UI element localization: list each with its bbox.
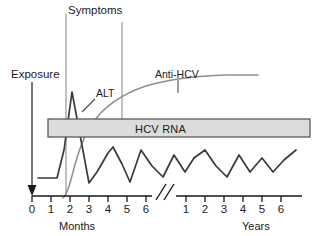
tick-label-year-4: 4: [236, 203, 250, 215]
tick-label-month-1: 1: [44, 203, 58, 215]
alt-label: ALT: [96, 88, 114, 99]
anti-hcv-label: Anti-HCV: [155, 69, 199, 80]
x-axis: [32, 184, 302, 202]
tick-label-month-6: 6: [139, 203, 153, 215]
tick-label-year-5: 5: [255, 203, 269, 215]
tick-label-year-2: 2: [198, 203, 212, 215]
x-axis-months-title: Months: [59, 221, 95, 232]
axis-break-mark: [156, 184, 174, 200]
tick-label-month-3: 3: [82, 203, 96, 215]
exposure-arrow: [28, 82, 37, 196]
x-axis-years-title: Years: [242, 221, 270, 232]
tick-label-year-3: 3: [217, 203, 231, 215]
tick-label-month-4: 4: [101, 203, 115, 215]
tick-label-year-1: 1: [179, 203, 193, 215]
hcv-serology-chart: Symptoms Exposure ALT Anti-HCV HCV RNA 0…: [0, 0, 321, 236]
hcv-rna-label: HCV RNA: [0, 124, 321, 135]
chart-canvas: [0, 0, 321, 236]
tick-label-month-2: 2: [63, 203, 77, 215]
tick-label-month-0: 0: [25, 203, 39, 215]
tick-label-year-6: 6: [274, 203, 288, 215]
tick-label-month-5: 5: [120, 203, 134, 215]
exposure-label: Exposure: [11, 69, 60, 81]
symptoms-label: Symptoms: [68, 5, 122, 17]
year-ticks: [186, 196, 281, 202]
month-ticks: [32, 196, 146, 202]
